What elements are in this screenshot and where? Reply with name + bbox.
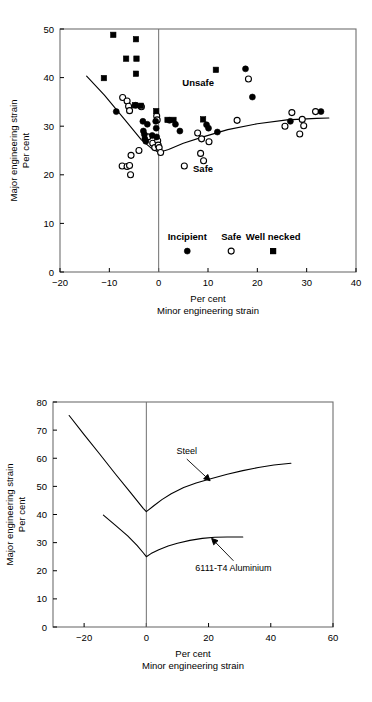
y-tick-label: 70 — [36, 425, 47, 436]
chart-forming-limit-experimental: −20−1001020304001020304050 UnsafeSafe In… — [0, 0, 372, 330]
annotation-label-6111-t4-aluminium: 6111-T4 Aluminium — [195, 563, 271, 573]
data-points — [101, 32, 324, 254]
data-point-safe — [289, 110, 295, 116]
legend-label-well-necked: Well necked — [246, 231, 301, 242]
data-point-incipient — [214, 129, 220, 135]
data-point-incipient — [113, 109, 119, 115]
data-point-well-necked — [123, 56, 128, 61]
data-point-safe — [128, 152, 134, 158]
legend-label-incipient: Incipient — [168, 231, 208, 242]
curves — [69, 416, 291, 557]
data-point-safe — [127, 108, 133, 114]
data-point-incipient — [242, 66, 248, 72]
axis-tick-labels: −20020406001020304050607080 — [36, 397, 338, 644]
top-chart-svg: −20−1001020304001020304050 UnsafeSafe In… — [0, 0, 372, 330]
x-tick-label: 0 — [156, 277, 161, 288]
data-point-safe — [245, 76, 251, 82]
data-point-safe — [158, 149, 164, 155]
data-point-safe — [313, 109, 319, 115]
data-point-safe — [206, 139, 212, 145]
data-point-incipient — [287, 118, 293, 124]
x-tick-label: 40 — [351, 277, 362, 288]
data-point-incipient — [177, 128, 183, 134]
data-point-incipient — [153, 118, 159, 124]
y-axis-title-line1: Major engineering strain — [4, 464, 15, 566]
curve-steel — [69, 416, 291, 512]
data-point-well-necked — [165, 117, 170, 122]
annotation-leader-steel — [187, 459, 206, 477]
data-point-safe — [297, 131, 303, 137]
data-point-safe — [198, 150, 204, 156]
axis-ticks — [53, 402, 333, 627]
x-axis-title-line2: Minor engineering strain — [157, 305, 259, 316]
data-point-incipient — [249, 94, 255, 100]
data-point-safe — [195, 130, 201, 136]
figure-page: −20−1001020304001020304050 UnsafeSafe In… — [0, 0, 372, 702]
data-point-safe — [127, 163, 133, 169]
data-point-incipient — [143, 138, 149, 144]
y-tick-label: 0 — [42, 622, 47, 633]
x-tick-label: −10 — [101, 277, 117, 288]
y-tick-label: 60 — [36, 453, 47, 464]
y-tick-label: 30 — [36, 537, 47, 548]
y-tick-label: 40 — [43, 72, 54, 83]
data-point-well-necked — [154, 108, 159, 113]
data-point-safe — [181, 163, 187, 169]
y-tick-label: 50 — [43, 24, 54, 35]
chart-legend: IncipientSafeWell necked — [168, 231, 301, 254]
y-tick-label: 50 — [36, 481, 47, 492]
y-axis-title-line2: Per cent — [16, 496, 27, 532]
y-axis-title-line1: Major engineering strain — [8, 100, 19, 202]
y-tick-label: 20 — [43, 169, 54, 180]
data-point-well-necked — [213, 67, 218, 72]
data-point-safe — [299, 116, 305, 122]
curve-6111-t4-aluminium — [103, 515, 242, 557]
data-point-incipient — [205, 125, 211, 131]
data-point-well-necked — [133, 37, 138, 42]
y-tick-label: 10 — [43, 218, 54, 229]
legend-label-safe: Safe — [221, 231, 241, 242]
data-point-incipient — [318, 109, 324, 115]
legend-marker-safe — [228, 248, 234, 254]
region-label-safe: Safe — [193, 163, 213, 174]
data-point-well-necked — [171, 117, 176, 122]
annotation-leader-6111-t4-aluminium — [216, 543, 234, 561]
data-point-incipient — [153, 125, 159, 131]
data-point-safe — [136, 148, 142, 154]
x-tick-label: 10 — [203, 277, 214, 288]
plot-border — [60, 29, 356, 272]
x-tick-label: 60 — [328, 632, 339, 643]
region-label-unsafe: Unsafe — [182, 77, 214, 88]
y-tick-label: 30 — [43, 121, 54, 132]
x-tick-label: −20 — [76, 632, 92, 643]
x-axis-title-line2: Minor engineering strain — [142, 660, 244, 671]
x-axis-title-line1: Per cent — [190, 293, 226, 304]
plot-border — [53, 402, 333, 627]
x-tick-label: −20 — [52, 277, 68, 288]
data-point-well-necked — [132, 103, 137, 108]
curve-annotations: Steel6111-T4 Aluminium — [177, 446, 272, 573]
data-point-well-necked — [111, 32, 116, 37]
y-tick-label: 40 — [36, 509, 47, 520]
legend-marker-incipient — [184, 248, 190, 254]
x-tick-label: 30 — [301, 277, 312, 288]
y-tick-label: 0 — [49, 267, 54, 278]
data-point-incipient — [144, 121, 150, 127]
y-axis-title-line2: Per cent — [20, 132, 31, 168]
x-tick-label: 0 — [144, 632, 149, 643]
data-point-well-necked — [200, 117, 205, 122]
data-point-safe — [301, 123, 307, 129]
data-point-safe — [234, 117, 240, 123]
data-point-well-necked — [133, 71, 138, 76]
annotation-label-steel: Steel — [177, 446, 198, 456]
legend-marker-well-necked — [270, 248, 275, 253]
chart-forming-limit-steel-vs-aluminium: −20020406001020304050607080 Steel6111-T4… — [0, 330, 372, 702]
data-point-safe — [282, 123, 288, 129]
x-tick-label: 20 — [203, 632, 214, 643]
data-point-safe — [128, 172, 134, 178]
x-axis-title-line1: Per cent — [175, 648, 211, 659]
x-tick-label: 40 — [265, 632, 276, 643]
plot-frame — [53, 402, 333, 627]
data-point-well-necked — [134, 56, 139, 61]
y-tick-label: 80 — [36, 397, 47, 408]
